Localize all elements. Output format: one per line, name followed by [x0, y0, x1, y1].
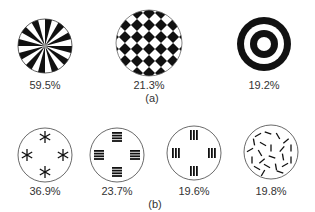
vertical-bars-pattern [167, 126, 221, 180]
value-label-b2: 23.7% [87, 185, 147, 197]
value-label-b4: 19.8% [241, 185, 301, 197]
value-label-a3: 19.2% [234, 79, 294, 91]
concentric-rings-pattern [237, 17, 291, 71]
panel-a-caption: (a) [137, 92, 167, 104]
asterisks-pattern [18, 128, 72, 182]
horizontal-bars-pattern [90, 128, 144, 182]
value-label-a1: 59.5% [15, 79, 75, 91]
value-label-a2: 21.3% [119, 79, 179, 91]
value-label-b1: 36.9% [15, 185, 75, 197]
random-lines-pattern [244, 125, 298, 179]
figure-canvas [0, 0, 315, 212]
value-label-b3: 19.6% [164, 185, 224, 197]
panel-b-caption: (b) [140, 198, 170, 210]
